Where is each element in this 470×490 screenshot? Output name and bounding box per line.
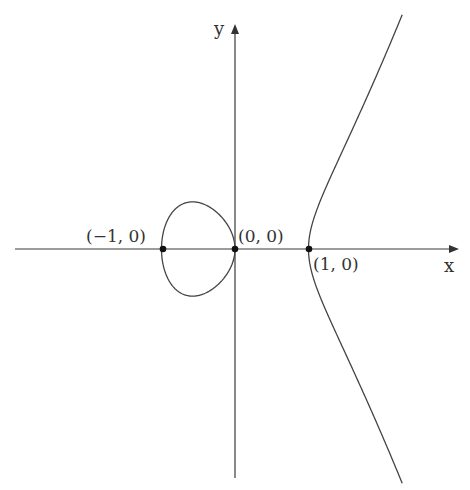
point-minus-one-label: (−1, 0) [86,226,146,246]
y-axis-label: y [213,18,225,39]
point-origin-dot [232,246,239,253]
y-axis-arrow-icon [231,24,239,34]
x-axis-label: x [444,255,454,276]
elliptic-curve-diagram: x y (−1, 0) (0, 0) (1, 0) [0,0,470,490]
point-one-label: (1, 0) [313,254,359,274]
point-minus-one-dot [160,246,167,253]
x-axis-arrow-icon [449,245,459,253]
point-origin-label: (0, 0) [238,226,284,246]
point-one-dot [306,246,313,253]
